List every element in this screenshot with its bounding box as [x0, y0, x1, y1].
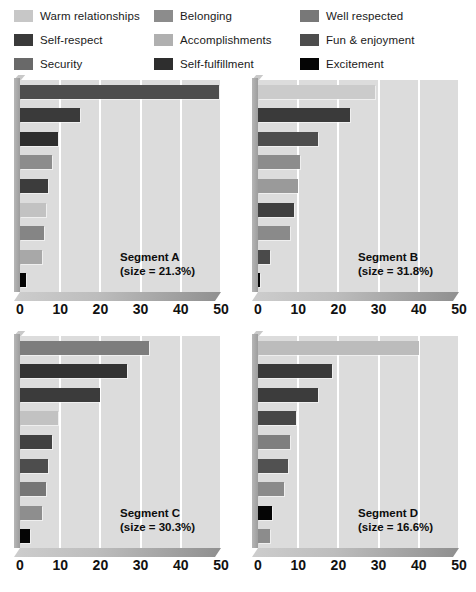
bar	[20, 388, 100, 402]
x-tick-label: 10	[52, 301, 68, 317]
gridline	[458, 336, 459, 548]
color-swatch-icon	[154, 10, 173, 22]
legend-item-self-respect: Self-respect	[0, 28, 150, 52]
bar	[20, 273, 26, 287]
gridline	[458, 80, 459, 292]
panel-size-label: (size = 31.8%)	[358, 264, 433, 278]
bar	[258, 273, 260, 287]
x-tick-label: 10	[290, 301, 306, 317]
panel-title: Segment C	[120, 506, 195, 520]
chart-panel-segment-a: Segment A(size = 21.3%)01020304050	[0, 72, 238, 332]
legend-item-label: Belonging	[180, 10, 232, 22]
panel-size-label: (size = 16.6%)	[358, 520, 433, 534]
bar	[20, 132, 58, 146]
panel-title: Segment D	[358, 506, 433, 520]
chart-panel-segment-d: Segment D(size = 16.6%)01020304050	[238, 328, 476, 588]
x-tick-label: 20	[93, 301, 109, 317]
bar	[258, 482, 284, 496]
bar	[258, 435, 290, 449]
bar	[20, 179, 48, 193]
panel-grid: Segment A(size = 21.3%)01020304050Segmen…	[0, 72, 476, 592]
bar	[258, 364, 332, 378]
panel-caption-segment-b: Segment B(size = 31.8%)	[358, 250, 433, 278]
color-swatch-icon	[154, 58, 173, 70]
bar	[258, 529, 270, 543]
chart-legend: Warm relationshipsBelongingWell respecte…	[0, 0, 476, 72]
gridline	[220, 336, 221, 548]
x-tick-label: 0	[16, 301, 24, 317]
legend-item-warm-relationships: Warm relationships	[0, 4, 150, 28]
color-swatch-icon	[154, 34, 173, 46]
bar	[258, 132, 318, 146]
panel-size-label: (size = 30.3%)	[120, 520, 195, 534]
x-tick-label: 50	[451, 301, 467, 317]
gridline	[99, 80, 101, 292]
legend-item-label: Excitement	[326, 58, 384, 70]
color-swatch-icon	[14, 58, 33, 70]
legend-item-well-respected: Well respected	[300, 4, 476, 28]
bar	[20, 108, 80, 122]
bar	[20, 226, 44, 240]
legend-item-fun-enjoyment: Fun & enjoyment	[300, 28, 476, 52]
panel-caption-segment-c: Segment C(size = 30.3%)	[120, 506, 195, 534]
legend-item-label: Warm relationships	[40, 10, 140, 22]
plot-floor	[252, 548, 459, 557]
bar	[20, 435, 52, 449]
bar	[20, 250, 42, 264]
x-tick-label: 0	[254, 557, 262, 573]
x-axis: 01020304050	[238, 301, 476, 325]
x-tick-label: 40	[173, 301, 189, 317]
bar	[20, 482, 46, 496]
x-axis: 01020304050	[0, 557, 238, 581]
bar	[258, 506, 272, 520]
bar	[20, 203, 46, 217]
plot-floor	[14, 548, 221, 557]
color-swatch-icon	[14, 34, 33, 46]
x-tick-label: 50	[213, 301, 229, 317]
bar	[258, 250, 270, 264]
color-swatch-icon	[300, 58, 319, 70]
color-swatch-icon	[14, 10, 33, 22]
x-tick-label: 30	[133, 557, 149, 573]
x-axis: 01020304050	[238, 557, 476, 581]
bar	[258, 341, 419, 355]
chart-panel-segment-b: Segment B(size = 31.8%)01020304050	[238, 72, 476, 332]
gridline	[220, 80, 221, 292]
plot-floor	[14, 292, 221, 301]
bar	[20, 155, 52, 169]
legend-item-label: Accomplishments	[180, 34, 272, 46]
color-swatch-icon	[300, 34, 319, 46]
x-tick-label: 0	[16, 557, 24, 573]
legend-item-label: Security	[40, 58, 82, 70]
panel-size-label: (size = 21.3%)	[120, 264, 195, 278]
bar	[258, 155, 300, 169]
x-tick-label: 40	[411, 557, 427, 573]
x-tick-label: 40	[411, 301, 427, 317]
legend-item-label: Fun & enjoyment	[326, 34, 414, 46]
x-tick-label: 40	[173, 557, 189, 573]
bar	[20, 364, 127, 378]
x-tick-label: 0	[254, 301, 262, 317]
legend-item-label: Self-fulfillment	[180, 58, 254, 70]
bar	[258, 226, 290, 240]
bar	[258, 179, 298, 193]
x-tick-label: 20	[331, 301, 347, 317]
bar	[20, 341, 149, 355]
panel-title: Segment A	[120, 250, 195, 264]
x-tick-label: 30	[371, 557, 387, 573]
color-swatch-icon	[300, 10, 319, 22]
panel-caption-segment-d: Segment D(size = 16.6%)	[358, 506, 433, 534]
panel-title: Segment B	[358, 250, 433, 264]
gridline	[337, 336, 339, 548]
panel-caption-segment-a: Segment A(size = 21.3%)	[120, 250, 195, 278]
legend-item-label: Self-respect	[40, 34, 103, 46]
bar	[258, 388, 318, 402]
bar	[20, 411, 58, 425]
x-axis: 01020304050	[0, 301, 238, 325]
legend-item-accomplishments: Accomplishments	[150, 28, 300, 52]
x-tick-label: 30	[371, 301, 387, 317]
x-tick-label: 20	[331, 557, 347, 573]
x-tick-label: 50	[451, 557, 467, 573]
bar	[258, 85, 375, 99]
x-tick-label: 20	[93, 557, 109, 573]
